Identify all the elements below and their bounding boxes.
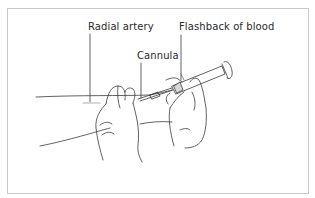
right-hand xyxy=(166,78,206,148)
label-flashback-of-blood: Flashback of blood xyxy=(179,21,274,32)
label-cannula: Cannula xyxy=(137,50,179,61)
label-radial-artery: Radial artery xyxy=(88,21,154,32)
left-hand xyxy=(96,86,142,162)
